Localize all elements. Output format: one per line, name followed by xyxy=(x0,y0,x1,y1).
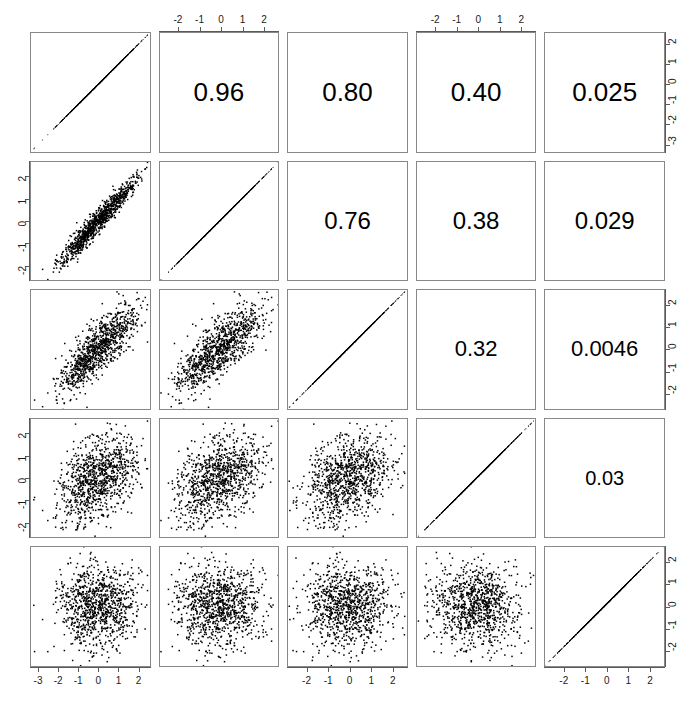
tick-mark xyxy=(457,27,458,32)
panel-scatter-5-2 xyxy=(159,546,280,667)
tick-mark xyxy=(665,84,670,85)
tick-label: 1 xyxy=(667,59,678,65)
tick-mark xyxy=(393,667,394,672)
tick-mark xyxy=(521,27,522,32)
tick-label: 2 xyxy=(136,675,142,686)
tick-label: -2 xyxy=(667,642,678,651)
tick-mark xyxy=(650,667,651,672)
axis-line xyxy=(159,31,280,32)
correlation-value: 0.03 xyxy=(585,468,624,488)
tick-label: 0 xyxy=(604,675,610,686)
panel-scatter-5-1 xyxy=(30,546,151,667)
panel-scatter-4-1 xyxy=(30,418,151,539)
tick-label: -3 xyxy=(667,136,678,145)
correlation-value: 0.025 xyxy=(572,79,637,105)
axis-left-row-4: 210-1-2 xyxy=(0,418,30,539)
tick-label: 0 xyxy=(667,344,678,350)
tick-mark xyxy=(665,124,670,125)
pairs-matrix-grid: 0.960.800.400.0250.760.380.0290.320.0046… xyxy=(30,32,665,667)
panel-correlation-1-2: 0.96 xyxy=(159,32,280,153)
tick-label: 2 xyxy=(261,14,267,25)
tick-label: -1 xyxy=(18,500,29,509)
tick-label: 1 xyxy=(18,456,29,462)
panel-correlation-1-4: 0.40 xyxy=(416,32,537,153)
tick-mark xyxy=(435,27,436,32)
tick-label: -2 xyxy=(54,675,63,686)
tick-label: -1 xyxy=(74,675,83,686)
panel-scatter-3-1 xyxy=(30,289,151,410)
tick-mark xyxy=(98,667,99,672)
axis-right-row-1: 210-1-2-3 xyxy=(665,32,694,153)
tick-label: -1 xyxy=(667,363,678,372)
axis-bottom-col-3: -2-1012 xyxy=(287,667,408,701)
correlation-value: 0.029 xyxy=(575,209,635,233)
tick-mark xyxy=(628,667,629,672)
tick-label: 2 xyxy=(667,556,678,562)
panel-correlation-3-5: 0.0046 xyxy=(544,289,665,410)
tick-label: -1 xyxy=(581,675,590,686)
tick-label: 0 xyxy=(18,221,29,227)
tick-mark xyxy=(371,667,372,672)
correlation-value: 0.38 xyxy=(453,209,500,233)
correlation-value: 0.40 xyxy=(451,79,502,105)
correlation-value: 0.96 xyxy=(194,79,245,105)
tick-mark xyxy=(665,44,670,45)
tick-mark xyxy=(178,27,179,32)
tick-label: -2 xyxy=(667,385,678,394)
tick-mark xyxy=(665,327,670,328)
panel-correlation-4-5: 0.03 xyxy=(544,418,665,539)
tick-label: -2 xyxy=(431,14,440,25)
tick-label: 2 xyxy=(18,176,29,182)
panel-diagonal-2-2 xyxy=(159,161,280,282)
correlation-value: 0.0046 xyxy=(571,338,638,360)
tick-label: 2 xyxy=(18,433,29,439)
panel-correlation-2-5: 0.029 xyxy=(544,161,665,282)
tick-label: 2 xyxy=(390,675,396,686)
tick-label: -2 xyxy=(559,675,568,686)
tick-mark xyxy=(221,27,222,32)
axis-top-col-2: -2-1012 xyxy=(159,0,280,32)
tick-mark xyxy=(665,349,670,350)
tick-label: -2 xyxy=(174,14,183,25)
tick-label: 2 xyxy=(667,38,678,44)
tick-mark xyxy=(78,667,79,672)
tick-mark xyxy=(38,667,39,672)
tick-mark xyxy=(665,629,670,630)
tick-label: 1 xyxy=(368,675,374,686)
tick-label: -2 xyxy=(18,266,29,275)
panel-scatter-3-2 xyxy=(159,289,280,410)
panel-diagonal-1-1 xyxy=(30,32,151,153)
panel-diagonal-3-3 xyxy=(287,289,408,410)
tick-label: -2 xyxy=(18,523,29,532)
tick-label: -1 xyxy=(195,14,204,25)
axis-line xyxy=(416,31,537,32)
panel-correlation-1-5: 0.025 xyxy=(544,32,665,153)
axis-bottom-col-1: -3-2-1012 xyxy=(30,667,151,701)
axis-line xyxy=(544,667,665,668)
tick-label: 1 xyxy=(18,199,29,205)
tick-label: 0 xyxy=(475,14,481,25)
tick-label: 2 xyxy=(519,14,525,25)
tick-mark xyxy=(328,667,329,672)
tick-label: -2 xyxy=(667,116,678,125)
axis-top-col-4: -2-1012 xyxy=(416,0,537,32)
tick-mark xyxy=(665,64,670,65)
panel-scatter-4-3 xyxy=(287,418,408,539)
tick-label: 2 xyxy=(667,299,678,305)
axis-right-row-5: 210-1-2 xyxy=(665,546,694,667)
panel-correlation-2-4: 0.38 xyxy=(416,161,537,282)
tick-label: 0 xyxy=(347,675,353,686)
tick-mark xyxy=(139,667,140,672)
panel-scatter-2-1 xyxy=(30,161,151,282)
tick-mark xyxy=(665,104,670,105)
scatterplot-matrix-figure: 0.960.800.400.0250.760.380.0290.320.0046… xyxy=(0,0,694,703)
tick-label: -1 xyxy=(452,14,461,25)
axis-left-row-2: 210-1-2 xyxy=(0,161,30,282)
tick-label: -1 xyxy=(667,620,678,629)
tick-label: -2 xyxy=(302,675,311,686)
tick-mark xyxy=(350,667,351,672)
tick-label: 0 xyxy=(667,79,678,85)
axis-right-row-3: 210-1-2 xyxy=(665,289,694,410)
tick-label: -1 xyxy=(324,675,333,686)
tick-label: 1 xyxy=(626,675,632,686)
